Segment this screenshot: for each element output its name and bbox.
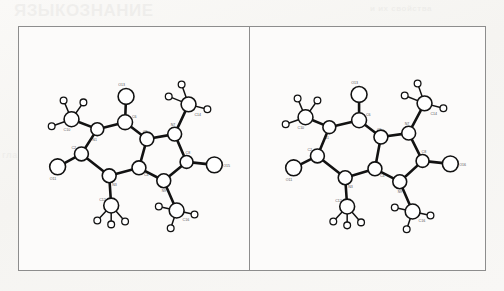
molecule-diagram-a: C2 N1 C6 O13 C5 C4 N3 O11 C10 C12 N7 C8 … [19, 27, 249, 270]
bleed-through-title: ЯЗЫКОЗНАНИЕ [14, 1, 154, 21]
atom-label-C2: C2 [307, 148, 312, 152]
atom-label-C8: C8 [186, 151, 191, 155]
atom-label-C5: C5 [143, 130, 148, 134]
atom-spheres-b [282, 80, 458, 233]
atom-label-C4: C4 [144, 173, 149, 177]
atom-label-O11: O11 [285, 178, 291, 182]
atom-label-C5: C5 [376, 128, 381, 132]
atom-label-C10: C10 [64, 128, 71, 132]
atom-label-N7: N7 [171, 123, 176, 127]
atom-label-N9: N9 [162, 189, 167, 193]
atom-label-C12: C12 [335, 199, 342, 203]
scanned-page-background: ЯЗЫКОЗНАНИЕ и их свойства глава вторая с… [0, 0, 504, 291]
atom-label-N7: N7 [404, 122, 409, 126]
atom-label-N3: N3 [348, 185, 353, 189]
atom-label-C6: C6 [366, 113, 371, 117]
atom-label-O15: O15 [223, 164, 230, 168]
atom-label-O13: O13 [351, 81, 358, 85]
atom-label-C10: C10 [297, 126, 304, 130]
atom-label-C14: C14 [195, 113, 202, 117]
atom-label-C16: C16 [183, 218, 190, 222]
molecule-diagram-b: C2 N1 C6 O13 C5 C4 N3 O11 C10 C12 N7 C8 … [251, 27, 486, 270]
atom-label-C14: C14 [430, 112, 437, 116]
atom-label-C12: C12 [99, 198, 106, 202]
atom-label-C6: C6 [132, 115, 137, 119]
atom-spheres-a [48, 81, 222, 232]
atom-label-C2: C2 [72, 146, 77, 150]
molecule-view-b: C2 N1 C6 O13 C5 C4 N3 O11 C10 C12 N7 C8 … [251, 27, 486, 270]
atom-label-N1: N1 [324, 136, 329, 140]
atom-label-N3: N3 [112, 183, 117, 187]
figure-frame: C2 N1 C6 O13 C5 C4 N3 O11 C10 C12 N7 C8 … [18, 26, 486, 271]
atom-label-N9: N9 [397, 190, 402, 194]
atom-label-N1: N1 [92, 138, 97, 142]
atom-label-C4: C4 [379, 174, 384, 178]
atom-label-O11: O11 [50, 177, 56, 181]
atom-label-O13: O13 [118, 83, 125, 87]
atom-label-C8: C8 [421, 150, 426, 154]
bleed-through-top-right: и их свойства [370, 4, 432, 13]
atom-label-O16: O16 [459, 163, 466, 167]
atom-label-C16: C16 [418, 219, 425, 223]
molecule-view-a: C2 N1 C6 O13 C5 C4 N3 O11 C10 C12 N7 C8 … [19, 27, 249, 270]
